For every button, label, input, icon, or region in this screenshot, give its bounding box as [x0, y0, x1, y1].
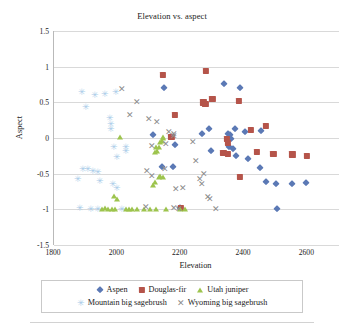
data-point: ✳	[76, 205, 84, 211]
data-point: ✕	[162, 140, 170, 146]
x-marker-icon: ✕	[177, 299, 185, 307]
y-axis-label: Aspect	[15, 88, 24, 168]
data-point	[149, 131, 157, 139]
data-point: ✕	[198, 180, 206, 186]
data-point	[273, 205, 281, 213]
data-point: ✕	[148, 143, 156, 149]
data-point: ✳	[122, 148, 130, 154]
data-point	[163, 207, 169, 212]
legend-item[interactable]: ✕Wyoming big sagebrush	[172, 298, 273, 307]
data-point: ✕	[118, 86, 126, 92]
x-tick-label: 1800	[33, 248, 73, 257]
data-point: ✕	[179, 185, 187, 191]
data-point	[160, 84, 168, 92]
data-point	[203, 68, 209, 74]
data-point: ✕	[153, 119, 161, 125]
data-point	[126, 207, 132, 212]
legend-label: Mountain big sagebrush	[88, 298, 167, 307]
data-point	[272, 181, 280, 189]
data-point: ✕	[148, 172, 156, 178]
data-point	[134, 206, 140, 211]
data-point	[220, 80, 228, 88]
data-point	[117, 135, 123, 140]
chart-title: Elevation vs. aspect	[0, 11, 344, 21]
data-point	[114, 197, 120, 202]
square-marker-icon	[138, 286, 146, 294]
data-point	[303, 179, 311, 187]
legend-label: Douglas-fir	[149, 285, 187, 294]
chart-legend: AspenDouglas-firUtah juniper✳Mountain bi…	[41, 280, 303, 313]
data-point	[208, 147, 216, 155]
legend-label: Aspen	[107, 285, 128, 294]
y-tick-label: 0.5	[5, 98, 49, 107]
y-axis-tick-labels: 1.510.50-0.5-1-1.5	[0, 31, 49, 245]
data-point	[236, 98, 242, 104]
data-point: ✕	[206, 196, 214, 202]
data-point: ✕	[200, 171, 208, 177]
data-point: ✳	[82, 103, 90, 109]
data-point	[236, 174, 242, 180]
data-point	[225, 140, 231, 146]
data-point	[270, 151, 276, 157]
x-tick-label: 2200	[160, 248, 200, 257]
data-point: ✕	[133, 99, 141, 105]
data-point	[160, 72, 166, 78]
data-point	[289, 181, 297, 189]
data-point: ✕	[192, 158, 200, 164]
data-point	[304, 153, 310, 159]
data-point	[172, 112, 178, 118]
data-point: ✳	[101, 90, 109, 96]
data-point	[220, 150, 226, 156]
data-point	[153, 207, 159, 212]
data-point: ✳	[74, 176, 82, 182]
y-tick-label: 1.5	[5, 27, 49, 36]
data-point	[202, 101, 208, 107]
bottom-divider	[30, 322, 314, 323]
data-point	[248, 127, 254, 133]
y-tick-label: 0	[5, 134, 49, 143]
legend-label: Wyoming big sagebrush	[188, 298, 268, 307]
data-point: ✳	[113, 185, 121, 191]
x-tick-label: 2000	[96, 248, 136, 257]
legend-row: AspenDouglas-firUtah juniper	[45, 283, 299, 296]
legend-item[interactable]: Utah juniper	[191, 285, 253, 294]
data-point	[171, 141, 179, 149]
data-point	[254, 149, 260, 155]
plot-area: ✳✳✳✳✳✳✳✳✳✳✳✳✳✳✳✳✳✳✳✳✳✳✳✳✕✕✕✕✕✕✕✕✕✕✕✕✕✕✕✕…	[53, 31, 338, 245]
legend-item[interactable]: Douglas-fir	[133, 285, 192, 294]
x-axis-label: Elevation	[53, 261, 338, 270]
data-point: ✕	[145, 116, 153, 122]
x-axis-tick-labels: 18002000220024002600	[53, 248, 338, 260]
data-point: ✕	[126, 112, 134, 118]
data-point	[236, 84, 244, 92]
star-marker-icon: ✳	[77, 299, 85, 307]
data-point	[198, 130, 206, 138]
data-point	[244, 156, 252, 164]
data-point	[169, 163, 177, 171]
data-point	[263, 123, 269, 129]
legend-item[interactable]: Aspen	[91, 285, 133, 294]
data-point	[231, 126, 239, 134]
data-point: ✕	[142, 204, 150, 210]
data-point	[160, 175, 166, 180]
data-point	[150, 183, 156, 188]
x-tick-label: 2600	[286, 248, 326, 257]
y-tick-label: -1	[5, 205, 49, 214]
data-point: ✳	[107, 125, 115, 131]
x-tick-label: 2400	[223, 248, 263, 257]
diamond-marker-icon	[96, 286, 104, 294]
data-point: ✕	[189, 139, 197, 145]
data-point: ✕	[170, 133, 178, 139]
legend-item[interactable]: ✳Mountain big sagebrush	[72, 298, 172, 307]
data-points-layer: ✳✳✳✳✳✳✳✳✳✳✳✳✳✳✳✳✳✳✳✳✳✳✳✳✕✕✕✕✕✕✕✕✕✕✕✕✕✕✕✕…	[54, 31, 339, 245]
data-point	[257, 164, 265, 172]
data-point: ✳	[113, 153, 121, 159]
data-point: ✳	[110, 144, 118, 150]
data-point: ✳	[91, 92, 99, 98]
data-point	[232, 152, 240, 160]
data-point: ✳	[78, 89, 86, 95]
data-point: ✕	[161, 166, 169, 172]
gridline	[54, 245, 339, 246]
data-point: ✳	[94, 205, 102, 211]
triangle-marker-icon	[196, 286, 204, 294]
